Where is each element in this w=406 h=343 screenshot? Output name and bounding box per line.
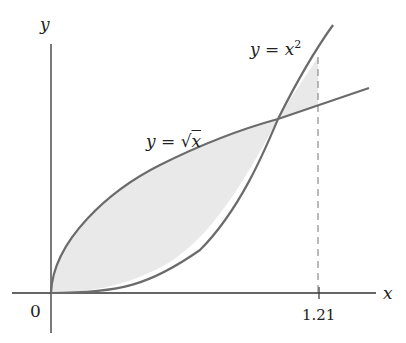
label-lhs: y =: [250, 39, 285, 59]
origin-label: 0: [30, 301, 41, 321]
label-var: x: [192, 131, 202, 151]
label-root: √: [181, 131, 192, 151]
diagram-canvas: [0, 0, 406, 343]
label-y-equals-sqrt-x: y = √x: [146, 131, 201, 151]
label-lhs: y =: [146, 131, 181, 151]
label-y-equals-x-squared: y = x2: [250, 38, 301, 59]
label-exponent: 2: [294, 38, 301, 51]
label-var: x: [285, 39, 295, 59]
shaded-region-right: [278, 57, 318, 119]
tick-label-1.21: 1.21: [302, 306, 335, 324]
y-axis-label: y: [40, 14, 50, 34]
x-axis-label: x: [383, 283, 393, 303]
